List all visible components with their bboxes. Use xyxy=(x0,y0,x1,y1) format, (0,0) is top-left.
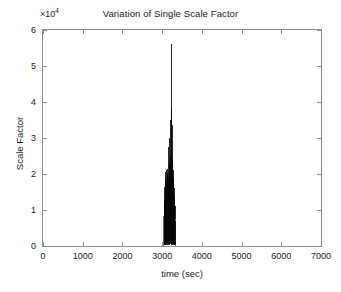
x-tick-mark xyxy=(83,242,84,246)
x-tick-label: 4000 xyxy=(192,251,212,261)
x-tick-label: 5000 xyxy=(232,251,252,261)
figure-canvas: Variation of Single Scale Factor ×104 Sc… xyxy=(0,0,341,292)
plot-area xyxy=(43,30,321,246)
y-tick-label: 2 xyxy=(31,169,36,179)
x-tick-mark xyxy=(122,30,123,34)
x-tick-mark xyxy=(281,30,282,34)
x-tick-label: 1000 xyxy=(73,251,93,261)
x-tick-mark xyxy=(281,242,282,246)
y-tick-mark xyxy=(317,66,321,67)
x-tick-mark xyxy=(162,242,163,246)
y-tick-mark xyxy=(43,102,47,103)
y-axis-label: Scale Factor xyxy=(14,94,25,194)
y-tick-mark xyxy=(317,246,321,247)
y-tick-mark xyxy=(317,30,321,31)
y-tick-label: 1 xyxy=(31,205,36,215)
y-tick-mark xyxy=(43,174,47,175)
x-tick-mark xyxy=(162,30,163,34)
x-tick-mark xyxy=(242,30,243,34)
y-tick-mark xyxy=(43,30,47,31)
y-tick-mark xyxy=(317,102,321,103)
x-tick-label: 0 xyxy=(40,251,45,261)
x-tick-mark xyxy=(202,242,203,246)
y-axis-exponent-base: ×10 xyxy=(40,9,55,19)
y-tick-label: 5 xyxy=(31,61,36,71)
y-tick-mark xyxy=(317,174,321,175)
y-tick-label: 6 xyxy=(31,25,36,35)
y-tick-mark xyxy=(43,138,47,139)
y-axis-exponent-power: 4 xyxy=(55,7,59,14)
y-tick-label: 3 xyxy=(31,133,36,143)
series-polyline xyxy=(43,44,321,246)
y-tick-label: 4 xyxy=(31,97,36,107)
x-tick-mark xyxy=(202,30,203,34)
y-tick-mark xyxy=(43,246,47,247)
y-tick-mark xyxy=(43,210,47,211)
x-tick-label: 3000 xyxy=(152,251,172,261)
y-tick-mark xyxy=(43,66,47,67)
x-axis-label: time (sec) xyxy=(42,268,322,279)
y-tick-mark xyxy=(317,138,321,139)
x-tick-mark xyxy=(83,30,84,34)
y-axis-exponent-label: ×104 xyxy=(40,9,59,19)
x-tick-mark xyxy=(122,242,123,246)
data-series-single-scale-factor xyxy=(43,30,321,246)
plot-box xyxy=(42,29,322,247)
x-tick-mark xyxy=(321,242,322,246)
x-tick-label: 2000 xyxy=(112,251,132,261)
y-tick-label: 0 xyxy=(31,241,36,251)
x-tick-label: 6000 xyxy=(271,251,291,261)
x-tick-label: 7000 xyxy=(311,251,331,261)
x-tick-mark xyxy=(321,30,322,34)
y-tick-mark xyxy=(317,210,321,211)
x-tick-mark xyxy=(242,242,243,246)
